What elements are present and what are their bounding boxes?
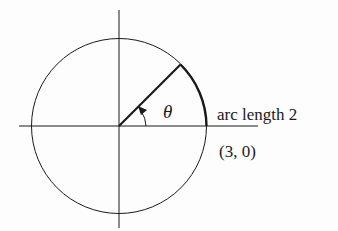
point-label: (3, 0) xyxy=(219,142,256,161)
unit-circle-diagram: θ arc length 2 (3, 0) xyxy=(0,0,338,231)
highlighted-arc xyxy=(181,65,207,127)
angle-arrowhead-icon xyxy=(138,106,147,115)
arc-length-label: arc length 2 xyxy=(217,105,297,124)
theta-label: θ xyxy=(163,101,172,122)
diagram-canvas: θ arc length 2 (3, 0) xyxy=(0,0,338,231)
